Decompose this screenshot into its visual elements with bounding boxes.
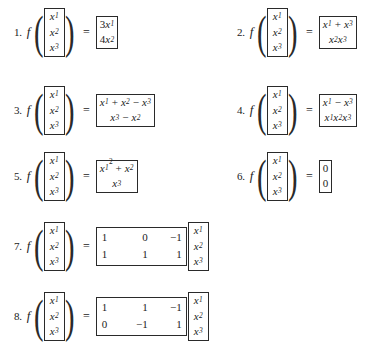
matrix-cell: 1 <box>150 246 184 264</box>
output-entry: x1+x2−x3 <box>100 95 151 111</box>
multiplied-vector: x1 x2 x3 <box>188 222 209 271</box>
vector-entry: x2 <box>271 169 284 185</box>
item-number: 8. <box>14 310 22 322</box>
matrix-row: 0 −1 1 <box>99 316 184 334</box>
vector-entry: x1 <box>48 153 61 169</box>
equals-sign: = <box>306 25 313 40</box>
vector-entry: x3 <box>48 118 61 134</box>
argument-vector: x1 x2 x3 <box>44 86 65 135</box>
matrix-cell: 1 <box>99 229 116 247</box>
vector-entry: x3 <box>48 324 61 340</box>
output-vector: x1+x2−x3 x3−x2 <box>96 94 155 127</box>
matrix-cell: 0 <box>116 229 150 247</box>
item-number: 4. <box>237 104 245 116</box>
vector-entry: x1 <box>48 223 61 239</box>
vector-entry: x2 <box>271 25 284 41</box>
argument-vector: x1 x2 x3 <box>44 222 65 271</box>
vector-entry: x3 <box>48 254 61 270</box>
argument-vector: x1 x2 x3 <box>44 292 65 341</box>
argument-vector: x1 x2 x3 <box>44 8 65 57</box>
vector-entry: x2 <box>48 169 61 185</box>
output-entry: 4x2 <box>100 32 114 48</box>
exercise-item-5: 5. f ( x1 x2 x3 ) = x12+x2 x3 <box>14 152 138 201</box>
vector-entry: x2 <box>271 103 284 119</box>
vector-entry: x1 <box>271 87 284 103</box>
exercise-item-2: 2. f ( x1 x2 x3 ) = x1+x3 x2x3 <box>237 8 357 57</box>
vector-entry: x1 <box>271 9 284 25</box>
vector-entry: x3 <box>271 118 284 134</box>
output-vector: 3x1 4x2 <box>96 16 118 49</box>
vector-entry: x2 <box>48 25 61 41</box>
function-symbol: f <box>27 308 31 324</box>
vector-entry: x3 <box>48 40 61 56</box>
matrix-cell: 1 <box>116 246 150 264</box>
vector-entry: x2 <box>48 239 61 255</box>
output-entry: 3x1 <box>100 17 114 33</box>
vector-entry: x3 <box>192 254 205 270</box>
output-entry: x1−x3 <box>323 95 353 111</box>
output-vector: 0 0 <box>319 160 333 193</box>
matrix-row: 1 1 1 <box>99 246 184 264</box>
output-entry: x1x2x3 <box>323 110 353 126</box>
matrix-row: 1 1 −1 <box>99 299 184 317</box>
equals-sign: = <box>83 169 90 184</box>
function-symbol: f <box>250 24 254 40</box>
vector-entry: x1 <box>192 223 205 239</box>
equals-sign: = <box>83 309 90 324</box>
vector-entry: x3 <box>271 40 284 56</box>
output-vector: x12+x2 x3 <box>96 160 138 193</box>
function-symbol: f <box>27 24 31 40</box>
exercise-item-8: 8. f ( x1 x2 x3 ) = 1 1 −1 0 −1 1 x1 x2 … <box>14 292 209 341</box>
exercise-item-7: 7. f ( x1 x2 x3 ) = 1 0 −1 1 1 1 x1 x2 x… <box>14 222 209 271</box>
matrix-cell: 1 <box>99 246 116 264</box>
coefficient-matrix: 1 0 −1 1 1 1 <box>96 227 187 267</box>
output-entry: x2x3 <box>323 32 353 48</box>
exercise-item-6: 6. f ( x1 x2 x3 ) = 0 0 <box>237 152 332 201</box>
function-symbol: f <box>250 102 254 118</box>
matrix-cell: 1 <box>99 299 116 317</box>
output-entry: x3 <box>100 176 134 192</box>
output-vector: x1−x3 x1x2x3 <box>319 94 357 127</box>
function-symbol: f <box>27 238 31 254</box>
output-entry: x1+x3 <box>323 17 353 33</box>
matrix-cell: 1 <box>116 299 150 317</box>
item-number: 1. <box>14 26 22 38</box>
output-entry: 0 <box>323 161 329 177</box>
output-entry: x12+x2 <box>100 161 134 177</box>
item-number: 2. <box>237 26 245 38</box>
vector-entry: x3 <box>192 324 205 340</box>
argument-vector: x1 x2 x3 <box>267 86 288 135</box>
exercise-item-4: 4. f ( x1 x2 x3 ) = x1−x3 x1x2x3 <box>237 86 357 135</box>
vector-entry: x3 <box>271 184 284 200</box>
exercise-item-1: 1. f ( x1 x2 x3 ) = 3x1 4x2 <box>14 8 118 57</box>
vector-entry: x1 <box>48 9 61 25</box>
item-number: 3. <box>14 104 22 116</box>
vector-entry: x1 <box>271 153 284 169</box>
matrix-row: 1 0 −1 <box>99 229 184 247</box>
vector-entry: x1 <box>48 87 61 103</box>
equals-sign: = <box>83 103 90 118</box>
matrix-cell: 1 <box>150 316 184 334</box>
equals-sign: = <box>306 103 313 118</box>
item-number: 6. <box>237 170 245 182</box>
matrix-cell: −1 <box>150 229 184 247</box>
item-number: 7. <box>14 240 22 252</box>
argument-vector: x1 x2 x3 <box>267 152 288 201</box>
vector-entry: x2 <box>48 103 61 119</box>
multiplied-vector: x1 x2 x3 <box>188 292 209 341</box>
equals-sign: = <box>306 169 313 184</box>
function-symbol: f <box>27 102 31 118</box>
matrix-cell: 0 <box>99 316 116 334</box>
output-vector: x1+x3 x2x3 <box>319 16 357 49</box>
argument-vector: x1 x2 x3 <box>267 8 288 57</box>
output-entry: x3−x2 <box>100 110 151 126</box>
coefficient-matrix: 1 1 −1 0 −1 1 <box>96 297 187 337</box>
vector-entry: x1 <box>48 293 61 309</box>
item-number: 5. <box>14 170 22 182</box>
function-symbol: f <box>27 168 31 184</box>
equals-sign: = <box>83 25 90 40</box>
vector-entry: x2 <box>48 309 61 325</box>
vector-entry: x3 <box>48 184 61 200</box>
equals-sign: = <box>83 239 90 254</box>
vector-entry: x2 <box>192 239 205 255</box>
